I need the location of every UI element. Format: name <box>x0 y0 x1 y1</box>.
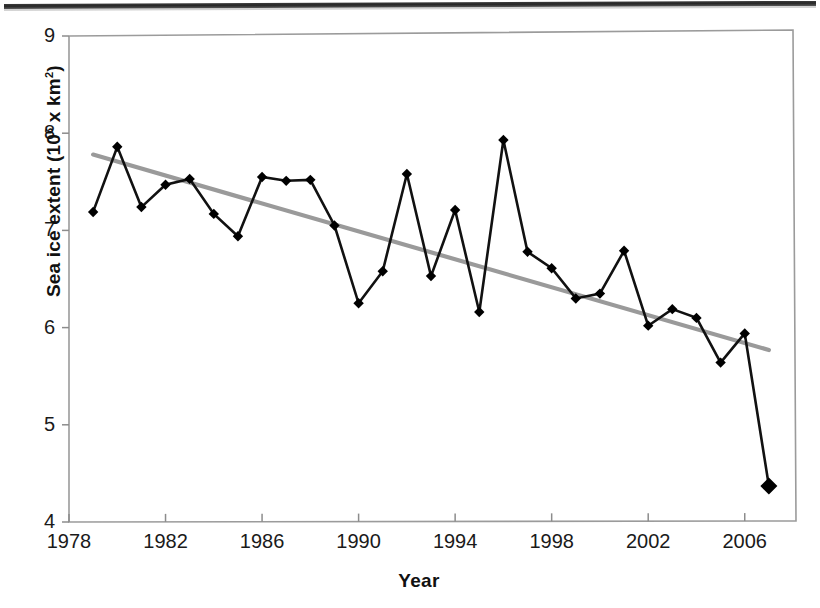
x-axis-tick-label: 2006 <box>705 531 785 551</box>
x-axis-tick-label: 1982 <box>126 531 206 551</box>
sea-ice-extent-line-chart: 456789 19781982198619901994199820022006 … <box>0 0 820 608</box>
data-point-marker <box>619 246 629 256</box>
y-axis-title: Sea ice extent (106 x km2) <box>43 31 65 331</box>
data-point-marker <box>498 135 508 145</box>
data-point-marker <box>112 142 122 152</box>
x-axis-tick-label: 1990 <box>319 531 399 551</box>
x-axis-title: Year <box>0 570 820 592</box>
x-axis-tick-label: 1998 <box>512 531 592 551</box>
data-point-marker <box>257 172 267 182</box>
data-point-marker <box>88 207 98 217</box>
x-axis-tick-label: 1978 <box>29 531 109 551</box>
data-point-marker <box>305 175 315 185</box>
x-axis-tick-label: 1994 <box>415 531 495 551</box>
sea-ice-extent-data-line <box>93 140 769 486</box>
x-axis-tick-label: 2002 <box>608 531 688 551</box>
data-point-marker <box>760 478 777 495</box>
data-point-marker <box>402 169 412 179</box>
x-axis-tick-label: 1986 <box>222 531 302 551</box>
data-point-marker <box>281 176 291 186</box>
data-point-marker <box>450 205 460 215</box>
data-point-marker <box>474 307 484 317</box>
data-point-marker <box>426 271 436 281</box>
y-axis-tick-label: 4 <box>23 511 55 531</box>
plot-canvas <box>0 0 820 608</box>
data-point-markers <box>88 135 777 495</box>
data-point-marker <box>691 313 701 323</box>
data-point-marker <box>595 288 605 298</box>
y-axis-tick-label: 5 <box>23 414 55 434</box>
